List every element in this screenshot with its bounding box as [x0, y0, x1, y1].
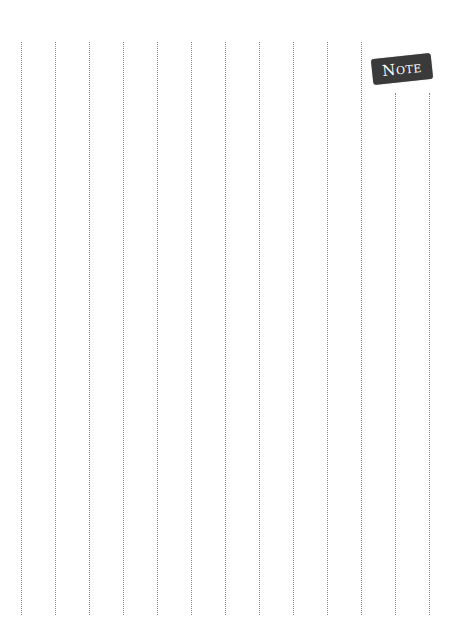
rule-line [429, 93, 430, 615]
rule-line [225, 42, 226, 615]
rule-line [157, 42, 158, 615]
rule-line [293, 42, 294, 615]
rule-line [89, 42, 90, 615]
rule-line [395, 93, 396, 615]
rule-line [259, 42, 260, 615]
rule-line [191, 42, 192, 615]
rule-line [327, 42, 328, 615]
note-badge: Note [371, 53, 433, 85]
note-badge-label: Note [382, 59, 423, 79]
rule-line [123, 42, 124, 615]
rule-line [55, 42, 56, 615]
rule-line [21, 42, 22, 615]
rule-line [361, 42, 362, 615]
notebook-page: Note [0, 0, 456, 629]
